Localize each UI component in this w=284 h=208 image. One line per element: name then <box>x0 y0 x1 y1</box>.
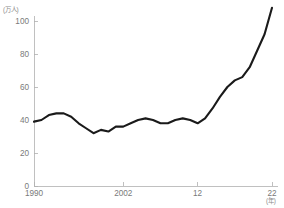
chart-plot-area: 020406080100 199020021222 <box>0 0 284 208</box>
y-axis-tick-marks <box>34 21 38 186</box>
data-series-line <box>34 8 272 133</box>
y-axis-tick-label: 20 <box>20 149 30 158</box>
x-axis-tick-labels: 199020021222 <box>25 189 277 198</box>
y-axis-tick-label: 40 <box>20 116 30 125</box>
y-axis-tick-label: 60 <box>20 83 30 92</box>
y-axis-tick-label: 100 <box>15 17 29 26</box>
line-chart: (万人) (年) 020406080100 199020021222 <box>0 0 284 208</box>
x-axis-tick-label: 22 <box>267 189 277 198</box>
x-axis-tick-label: 12 <box>193 189 203 198</box>
x-axis-tick-label: 1990 <box>25 189 44 198</box>
x-axis-tick-marks <box>34 182 272 186</box>
y-axis-tick-labels: 020406080100 <box>15 17 29 191</box>
y-axis-tick-label: 80 <box>20 50 30 59</box>
x-axis-tick-label: 2002 <box>114 189 133 198</box>
